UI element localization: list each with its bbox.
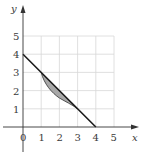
axes bbox=[3, 10, 136, 152]
x-tick-2: 2 bbox=[57, 132, 63, 143]
y-axis-label: y bbox=[10, 3, 17, 14]
y-tick-3: 3 bbox=[13, 67, 19, 78]
y-axis-arrow-icon bbox=[21, 5, 26, 13]
x-tick-5: 5 bbox=[111, 132, 117, 143]
x-axis-arrow-icon bbox=[131, 125, 139, 130]
x-tick-3: 3 bbox=[75, 132, 81, 143]
y-tick-5: 5 bbox=[13, 31, 19, 42]
grid bbox=[23, 36, 114, 127]
y-tick-4: 4 bbox=[13, 49, 19, 60]
y-tick-1: 1 bbox=[13, 104, 19, 115]
x-tick-0: 0 bbox=[20, 132, 26, 143]
x-tick-1: 1 bbox=[39, 132, 45, 143]
x-axis-label: x bbox=[132, 132, 138, 143]
coordinate-plane: y x 0 1 2 3 4 5 1 2 3 4 5 bbox=[0, 0, 142, 156]
x-tick-4: 4 bbox=[93, 132, 99, 143]
y-tick-2: 2 bbox=[13, 86, 19, 97]
